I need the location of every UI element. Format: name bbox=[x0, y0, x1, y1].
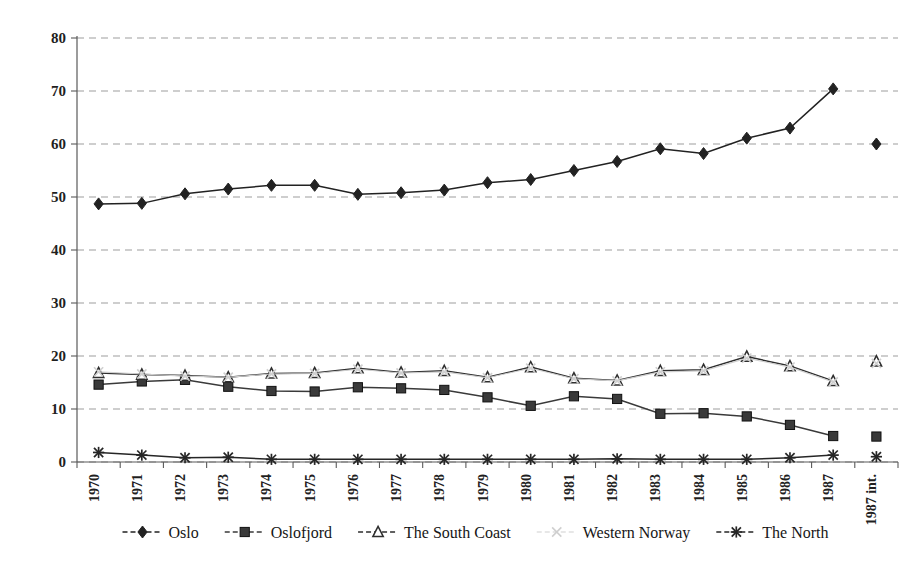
point-oslo-1983 bbox=[656, 143, 665, 155]
ytick-label-30: 30 bbox=[51, 295, 66, 311]
series-western-norway bbox=[99, 358, 834, 382]
legend-label-the-north: The North bbox=[762, 524, 828, 541]
point-oslo-1979 bbox=[483, 177, 492, 189]
point-oslofjord-1983 bbox=[656, 409, 665, 418]
ytick-label-20: 20 bbox=[51, 348, 66, 364]
point-oslofjord-1980 bbox=[526, 401, 535, 410]
series-line bbox=[99, 380, 834, 436]
point-oslo-1972 bbox=[180, 188, 189, 200]
point-oslo-1987 int. bbox=[872, 138, 881, 150]
point-oslofjord-1985 bbox=[742, 412, 751, 421]
series-the-north bbox=[99, 452, 834, 459]
point-oslofjord-1977 bbox=[396, 384, 405, 393]
point-oslofjord-1981 bbox=[569, 392, 578, 401]
point-oslofjord-1976 bbox=[353, 383, 362, 392]
point-oslofjord-1973 bbox=[224, 382, 233, 391]
point-oslo-1973 bbox=[224, 183, 233, 195]
point-oslofjord-1979 bbox=[483, 393, 492, 402]
xtick-label-1986: 1986 bbox=[778, 474, 793, 502]
point-oslofjord-1974 bbox=[267, 386, 276, 395]
xtick-label-1976: 1976 bbox=[346, 474, 361, 502]
point-oslo-1984 bbox=[699, 148, 708, 160]
ytick-label-60: 60 bbox=[51, 136, 66, 152]
point-oslo-1971 bbox=[137, 197, 146, 209]
point-oslo-1975 bbox=[310, 179, 319, 191]
xtick-label-1973: 1973 bbox=[216, 474, 231, 502]
point-oslofjord-1984 bbox=[699, 409, 708, 418]
xtick-label-1981: 1981 bbox=[562, 474, 577, 502]
point-the-south-coast-1980 bbox=[526, 362, 536, 372]
legend-label-the-south-coast: The South Coast bbox=[404, 524, 511, 541]
xtick-label-1975: 1975 bbox=[303, 474, 318, 502]
chart-container: 0102030405060708019701971197219731974197… bbox=[0, 0, 916, 566]
point-the-south-coast-1976 bbox=[353, 363, 363, 373]
point-oslo-1982 bbox=[613, 155, 622, 167]
point-oslo-1978 bbox=[440, 184, 449, 196]
ytick-label-0: 0 bbox=[59, 454, 67, 470]
point-oslofjord-1986 bbox=[785, 420, 794, 429]
ytick-label-10: 10 bbox=[51, 401, 66, 417]
xtick-label-1984: 1984 bbox=[692, 474, 707, 502]
ytick-label-70: 70 bbox=[51, 83, 66, 99]
xtick-label-1977: 1977 bbox=[389, 474, 404, 502]
point-oslo-1970 bbox=[94, 198, 103, 210]
point-oslofjord-1987 bbox=[829, 431, 838, 440]
xtick-label-1980: 1980 bbox=[519, 474, 534, 502]
point-oslofjord-1982 bbox=[613, 394, 622, 403]
xtick-label-1987: 1987 bbox=[821, 474, 836, 502]
series-line bbox=[99, 89, 834, 204]
ytick-label-80: 80 bbox=[51, 30, 66, 46]
point-oslo-1985 bbox=[742, 132, 751, 144]
legend-marker-oslo bbox=[138, 526, 147, 538]
series-line bbox=[99, 452, 834, 459]
series-oslo bbox=[99, 89, 834, 204]
point-oslofjord-1978 bbox=[440, 385, 449, 394]
point-oslo-1974 bbox=[267, 179, 276, 191]
xtick-label-1971: 1971 bbox=[130, 474, 145, 502]
xtick-label-1979: 1979 bbox=[476, 474, 491, 502]
series-line bbox=[99, 358, 834, 382]
point-oslo-1976 bbox=[353, 188, 362, 200]
xtick-label-1987-int-: 1987 int. bbox=[864, 474, 879, 525]
point-oslofjord-1975 bbox=[310, 387, 319, 396]
legend-label-oslo: Oslo bbox=[169, 524, 199, 541]
series-oslofjord bbox=[99, 380, 834, 436]
point-oslo-1981 bbox=[569, 165, 578, 177]
legend-label-western-norway: Western Norway bbox=[583, 524, 691, 542]
line-chart-svg: 0102030405060708019701971197219731974197… bbox=[0, 0, 916, 566]
point-oslofjord-1970 bbox=[94, 380, 103, 389]
point-oslo-1980 bbox=[526, 174, 535, 186]
legend-label-oslofjord: Oslofjord bbox=[271, 524, 332, 542]
ytick-label-40: 40 bbox=[51, 242, 66, 258]
point-oslo-1986 bbox=[785, 122, 794, 134]
point-oslofjord-1987 int. bbox=[872, 432, 881, 441]
xtick-label-1985: 1985 bbox=[735, 474, 750, 502]
legend-marker-oslofjord bbox=[240, 527, 249, 536]
xtick-label-1972: 1972 bbox=[173, 474, 188, 502]
xtick-label-1974: 1974 bbox=[259, 474, 274, 502]
xtick-label-1983: 1983 bbox=[648, 474, 663, 502]
xtick-label-1970: 1970 bbox=[87, 474, 102, 502]
point-oslo-1987 bbox=[829, 83, 838, 95]
xtick-label-1982: 1982 bbox=[605, 474, 620, 502]
ytick-label-50: 50 bbox=[51, 189, 66, 205]
xtick-label-1978: 1978 bbox=[432, 474, 447, 502]
